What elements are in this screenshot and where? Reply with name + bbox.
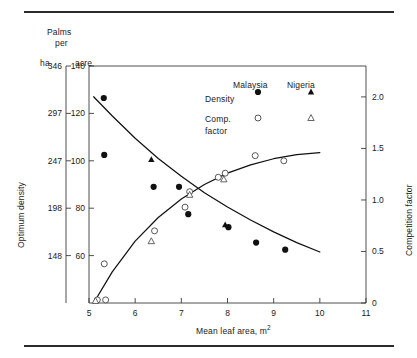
- data-point: [252, 153, 258, 159]
- legend-header-malaysia: Malaysia: [233, 80, 268, 90]
- data-point: [101, 152, 107, 158]
- y-axis-label: Optimum density: [16, 182, 26, 248]
- y2-tick-label: 0: [372, 298, 377, 308]
- x-label-superscript: 2: [267, 324, 271, 331]
- legend-header-nigeria: Nigeria: [287, 80, 315, 90]
- y2-tick-label: 0.5: [372, 246, 384, 256]
- unit-ha: ha: [40, 58, 50, 68]
- legend-marker-comp-malaysia: [255, 115, 261, 121]
- ha-tick-label: 198: [48, 203, 62, 213]
- data-point: [148, 238, 154, 244]
- data-point: [253, 239, 259, 245]
- unit-acre: acre: [75, 58, 92, 68]
- x-tick-label: 6: [133, 308, 138, 318]
- data-point: [148, 156, 154, 162]
- y2-tick-label: 2.0: [372, 92, 384, 102]
- x-tick-label: 9: [271, 308, 276, 318]
- y-tick-label: 120: [71, 108, 85, 118]
- data-point: [151, 184, 157, 190]
- x-tick-label: 8: [225, 308, 230, 318]
- x-tick-label: 10: [315, 308, 325, 318]
- header-per: per: [55, 38, 68, 48]
- y2-axis-label: Competition factor: [404, 184, 414, 256]
- data-point: [152, 228, 158, 234]
- legend-label-factor: factor: [205, 126, 227, 136]
- legend-label-density: Density: [205, 94, 234, 104]
- data-point: [281, 158, 287, 164]
- y-tick-label: 80: [76, 203, 86, 213]
- y-tick-label: 60: [76, 251, 86, 261]
- y-tick-label: 100: [71, 156, 85, 166]
- x-axis-label: Mean leaf area, m2: [196, 324, 271, 336]
- data-point: [182, 204, 188, 210]
- ha-tick-label: 148: [48, 251, 62, 261]
- y2-tick-label: 1.0: [372, 195, 384, 205]
- ha-tick-label: 247: [48, 156, 62, 166]
- x-tick-label: 11: [362, 308, 371, 318]
- figure: 608010012014014819824729734600.51.01.52.…: [0, 0, 417, 358]
- data-point: [176, 184, 182, 190]
- y2-tick-label: 1.5: [372, 143, 384, 153]
- data-point: [101, 95, 107, 101]
- data-point: [185, 211, 191, 217]
- legend-marker-comp-nigeria: [308, 115, 314, 121]
- data-point: [222, 170, 228, 176]
- legend-label-comp: Comp.: [205, 114, 231, 124]
- x-tick-label: 7: [179, 308, 184, 318]
- header-palms: Palms: [47, 27, 71, 37]
- chart-canvas: 608010012014014819824729734600.51.01.52.…: [0, 0, 417, 358]
- curve-competition-fit: [94, 153, 320, 303]
- data-point: [282, 247, 288, 253]
- ha-tick-label: 297: [48, 108, 62, 118]
- data-point: [103, 297, 109, 303]
- data-point: [101, 261, 107, 267]
- x-tick-label: 5: [87, 308, 92, 318]
- data-point: [215, 174, 221, 180]
